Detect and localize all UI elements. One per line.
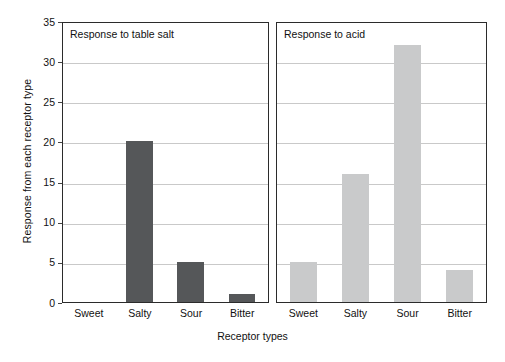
bar-bitter [446,270,473,302]
x-tick-label: Sweet [289,307,318,319]
x-tick-label: Salty [344,307,367,319]
panel-right-x-tick-labels: SweetSaltySourBitter [0,307,505,323]
y-tick-label: 10 [43,215,55,230]
y-axis-label: Response from each receptor type [21,56,33,266]
panel-right-bars [277,23,486,302]
y-axis: 05101520253035 [34,22,62,303]
chart-figure: Response from each receptor type 0510152… [0,0,505,362]
bar-sour [394,45,421,302]
y-tick-label: 30 [43,55,55,70]
y-tick-label: 25 [43,95,55,110]
y-tick-label: 20 [43,135,55,150]
panel-left-title: Response to table salt [70,28,174,40]
x-axis-label: Receptor types [0,330,505,342]
x-tick-label: Sour [396,307,418,319]
y-tick-label: 35 [43,15,55,30]
bar-sweet [290,262,317,302]
bar-sour [177,262,204,302]
panel-right-title: Response to acid [284,28,365,40]
y-tick-label: 5 [49,255,55,270]
panel-response-to-table-salt: Response to table salt [62,22,269,303]
panel-response-to-acid: Response to acid [276,22,487,303]
x-tick-label: Bitter [447,307,472,319]
bar-salty [342,174,369,302]
panel-left-bars [63,23,268,302]
y-tick-label: 15 [43,175,55,190]
y-tick-mark [58,303,62,304]
bar-salty [126,141,153,302]
bar-bitter [229,294,256,302]
